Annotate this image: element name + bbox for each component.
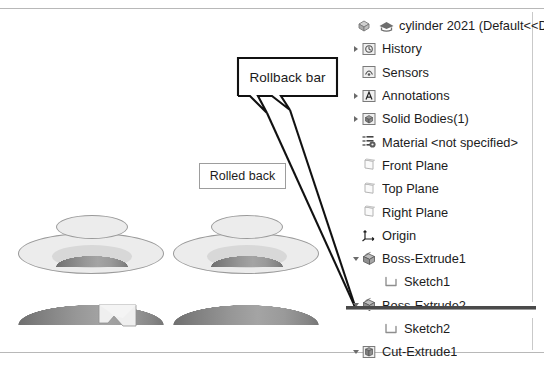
chevron-down-icon[interactable]	[350, 257, 361, 261]
sketch-icon	[383, 274, 400, 290]
tree-row-label: Right Plane	[382, 205, 448, 220]
tree-row-label: Sketch1	[404, 274, 450, 289]
boss-extrude-icon	[361, 251, 378, 267]
sketch-icon	[383, 321, 400, 337]
tree-row-history[interactable]: History	[346, 37, 544, 60]
tree-row-right-plane[interactable]: Right Plane	[346, 200, 544, 223]
solidworks-part-icon	[357, 18, 374, 34]
annotations-icon	[361, 88, 378, 104]
tree-row-label: Sensors	[382, 65, 429, 80]
tree-row-label: Cut-Extrude1	[382, 344, 457, 359]
tree-row-cylinder-2021-default-d[interactable]: cylinder 2021 (Default<<D	[346, 14, 544, 37]
tree-row-sketch2[interactable]: Sketch2	[346, 317, 544, 340]
feature-manager-tree[interactable]: cylinder 2021 (Default<<D History Sensor…	[346, 14, 544, 352]
plane-icon	[361, 157, 378, 173]
model-rolled-back[interactable]	[173, 213, 323, 353]
tree-row-label: Sketch2	[404, 321, 450, 336]
tree-row-annotations[interactable]: Annotations	[346, 84, 544, 107]
upper-cylinder-top-face-2	[211, 215, 283, 239]
tree-row-sketch1[interactable]: Sketch1	[346, 270, 544, 293]
tree-row-boss-extrude1[interactable]: Boss-Extrude1	[346, 247, 544, 270]
part-config-icon	[378, 18, 395, 34]
solid-bodies-icon	[361, 111, 378, 127]
chevron-right-icon[interactable]	[350, 46, 361, 52]
cut-extrude-notch	[90, 285, 150, 327]
rollback-bar-handle[interactable]	[346, 306, 536, 309]
screenshot-root: Rollback bar Rolled back cylinder 2021 (…	[0, 0, 544, 366]
tree-row-label: Boss-Extrude1	[382, 251, 466, 266]
chevron-right-icon[interactable]	[350, 93, 361, 99]
top-divider-rule	[0, 8, 544, 9]
callout-rollback-bar-label: Rollback bar	[237, 57, 338, 97]
tree-row-material-not-specified[interactable]: Material <not specified>	[346, 130, 544, 153]
tree-row-label: Front Plane	[382, 158, 448, 173]
tree-row-front-plane[interactable]: Front Plane	[346, 154, 544, 177]
history-icon	[361, 41, 378, 57]
tree-row-sensors[interactable]: Sensors	[346, 61, 544, 84]
plane-icon	[361, 181, 378, 197]
tree-row-cut-extrude1[interactable]: Cut-Extrude1	[346, 340, 544, 363]
chevron-right-icon[interactable]	[350, 116, 361, 122]
tree-row-solid-bodies-1[interactable]: Solid Bodies(1)	[346, 107, 544, 130]
tree-row-label: cylinder 2021 (Default<<D	[399, 18, 544, 33]
tree-row-label: Annotations	[382, 88, 450, 103]
model-rolled-forward[interactable]	[18, 213, 168, 353]
tree-row-label: History	[382, 41, 422, 56]
tree-row-origin[interactable]: Origin	[346, 224, 544, 247]
callout-rolled-back: Rolled back	[199, 163, 286, 189]
plane-icon	[361, 204, 378, 220]
tree-row-label: Material <not specified>	[382, 135, 518, 150]
tree-row-label: Solid Bodies(1)	[382, 111, 469, 126]
tree-row-label: Origin	[382, 228, 416, 243]
cut-extrude-icon	[361, 344, 378, 360]
tree-row-top-plane[interactable]: Top Plane	[346, 177, 544, 200]
upper-cylinder-top-face	[56, 215, 128, 239]
callout-rollback-bar: Rollback bar	[237, 57, 338, 97]
chevron-down-icon[interactable]	[350, 350, 361, 354]
tree-row-label: Top Plane	[382, 181, 439, 196]
origin-icon	[361, 227, 378, 243]
callout-rolled-back-label: Rolled back	[210, 169, 275, 183]
material-icon	[361, 134, 378, 150]
sensors-icon	[361, 64, 378, 80]
